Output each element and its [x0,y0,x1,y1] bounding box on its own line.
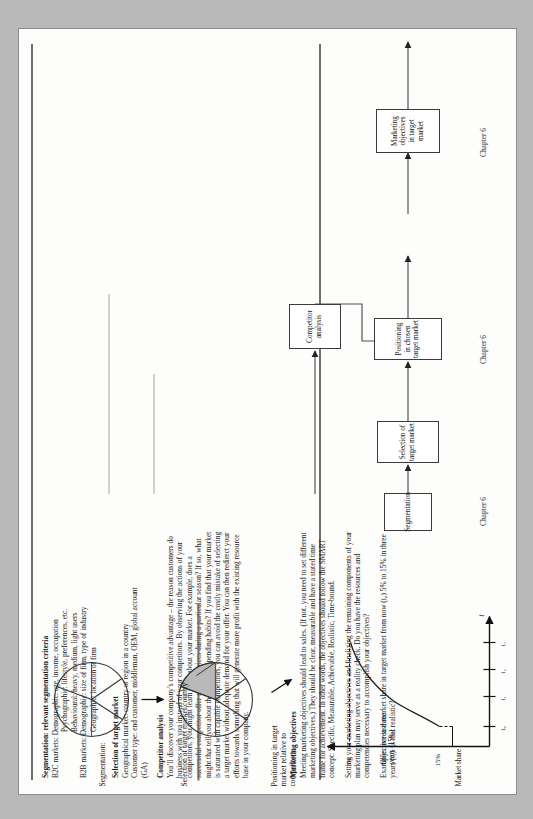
chapter-label-1: Chapter 6 [479,335,488,364]
tick-market-share-5: 5% [344,757,351,766]
flow-box-positioning-in-chosen-target-market[interactable]: Positioning in chosen target market [374,318,442,360]
flow-box-competitor-analysis[interactable]: Competitor analysis [289,304,341,349]
chapter-label-2: Chapter 6 [479,128,488,157]
axis-label-market-share: Market share [454,748,462,786]
axis-label-time: t [477,614,485,616]
flow-box-segmentation[interactable]: Segmentation [384,493,432,531]
illustration-graphics [19,604,516,794]
illustration-strip: Segmentation: [19,604,516,794]
pie-label-selection: Selection of target market/country [179,636,188,786]
flow-box-competitor-label: Competitor analysis [306,310,323,343]
objective-annotation: Objective in three years (15%) [379,674,395,764]
tick-time-t1: t₁ [498,696,505,700]
flow-box-marketing-objectives-in-target-market[interactable]: Marketing objectives in target market [376,109,440,153]
tick-time-t2: t₂ [498,669,505,673]
segmentation-pie [54,662,128,736]
flow-box-segmentation-label: Segmentation [404,492,413,532]
flow-box-selection-label: Selection of target market [399,423,416,461]
tick-time-t0: t₀ [498,726,505,730]
flow-box-marketing-objectives-label: Marketing objectives in target market [391,111,425,151]
pie-label-positioning: Positioning in target market relative to… [269,656,296,786]
tick-time-t3: t₃ [498,642,505,646]
flow-box-positioning-label: Positioning in chosen target market [395,320,421,358]
chapter-label-0: Chapter 6 [479,497,488,526]
page-sheet: Segmentation: relevant segmentation crit… [18,28,517,795]
tick-market-share-15: 15% [433,754,440,766]
market-share-chart [327,616,495,746]
flow-box-selection-of-target-market[interactable]: Selection of target market [377,421,439,463]
target-market-pie [178,662,252,736]
